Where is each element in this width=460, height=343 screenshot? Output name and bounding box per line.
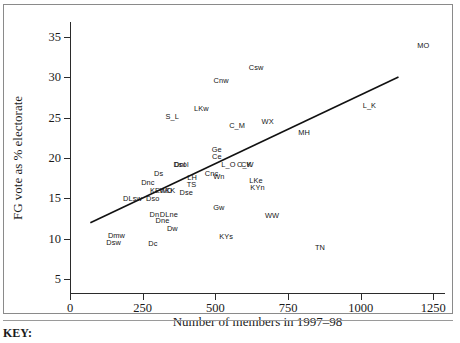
y-tick-label: 10 [49, 231, 62, 246]
data-point-label: Dw [167, 223, 178, 232]
y-tick-mark [64, 239, 70, 240]
y-tick-mark [64, 77, 70, 78]
key-heading: KEY: [3, 326, 32, 341]
data-point-label: L_O [221, 159, 235, 168]
data-point-label: Dc [148, 239, 157, 248]
plot-area: 5101520253035 025050075010001250 MOCswCn… [70, 22, 445, 294]
data-point-label: CW [241, 160, 254, 169]
y-tick-mark [64, 198, 70, 199]
data-point-label: Cnw [214, 76, 229, 85]
data-point-label: Ds [154, 168, 163, 177]
data-point-label: KK [165, 186, 175, 195]
data-point-label: WW [265, 211, 279, 220]
data-point-label: Dso [146, 193, 159, 202]
data-point-label: Csw [249, 63, 264, 72]
data-point-label: Dsw [106, 238, 121, 247]
x-tick-mark [433, 294, 434, 300]
y-tick-label: 5 [55, 272, 61, 287]
y-tick-label: 25 [49, 110, 62, 125]
x-tick-mark [288, 294, 289, 300]
y-tick-mark [64, 118, 70, 119]
y-tick-mark [64, 158, 70, 159]
data-point-label: MH [298, 128, 310, 137]
x-tick-mark [143, 294, 144, 300]
y-tick-label: 35 [49, 29, 62, 44]
data-point-label: S_L [166, 111, 179, 120]
data-point-label: WX [262, 116, 274, 125]
x-tick-mark [361, 294, 362, 300]
key-divider [3, 320, 453, 321]
y-tick-mark [64, 279, 70, 280]
data-point-label: TN [315, 243, 325, 252]
data-point-label: Ce [212, 152, 222, 161]
data-point-label: Gw [213, 203, 224, 212]
data-point-label: DLsw [123, 193, 142, 202]
data-point-label: KYs [219, 231, 233, 240]
data-point-label: MO [417, 40, 429, 49]
data-point-label: Dse [180, 188, 193, 197]
data-point-label: L_K [363, 101, 376, 110]
data-point-label: Wn [213, 171, 224, 180]
data-point-label: LKw [194, 103, 209, 112]
figure-root: 5101520253035 025050075010001250 MOCswCn… [0, 0, 460, 343]
x-tick-mark [70, 294, 71, 300]
data-point-label: Dsol [173, 159, 188, 168]
y-tick-label: 30 [49, 70, 62, 85]
data-point-label: KYn [250, 183, 264, 192]
data-point-label: C_M [229, 120, 245, 129]
y-tick-label: 20 [49, 151, 62, 166]
y-tick-label: 15 [49, 191, 62, 206]
y-tick-mark [64, 37, 70, 38]
y-axis-label: FG vote as % electorate [10, 96, 26, 220]
x-tick-mark [215, 294, 216, 300]
x-axis-label: Number of members in 1997–98 [70, 314, 445, 330]
